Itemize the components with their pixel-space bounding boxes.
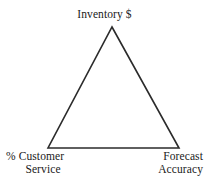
vertex-label-customer-service-line-1: % Customer bbox=[6, 150, 86, 163]
diagram-canvas: Inventory $ % Customer Service Forecast … bbox=[0, 0, 209, 185]
triangle-outline bbox=[48, 27, 179, 148]
vertex-label-customer-service: % Customer Service bbox=[6, 150, 86, 175]
vertex-label-customer-service-line-2: Service bbox=[6, 163, 86, 176]
vertex-label-forecast-accuracy: Forecast Accuracy bbox=[123, 150, 203, 175]
vertex-label-inventory: Inventory $ bbox=[0, 8, 209, 21]
vertex-label-forecast-accuracy-line-2: Accuracy bbox=[123, 163, 203, 176]
vertex-label-forecast-accuracy-line-1: Forecast bbox=[123, 150, 203, 163]
vertex-label-inventory-text: Inventory $ bbox=[77, 8, 131, 20]
